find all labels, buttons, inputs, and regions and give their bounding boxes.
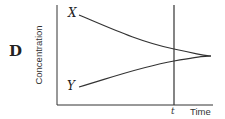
series-x-label: X [68, 6, 77, 20]
x-axis-label: Time [190, 106, 211, 117]
series-x-curve [79, 15, 211, 56]
t-tick-label: t [171, 106, 175, 116]
plot-area [0, 0, 225, 119]
series-y-curve [79, 56, 211, 87]
series-y-label: Y [67, 79, 75, 93]
chart-figure: D Concentration X Y t Time [0, 0, 225, 119]
